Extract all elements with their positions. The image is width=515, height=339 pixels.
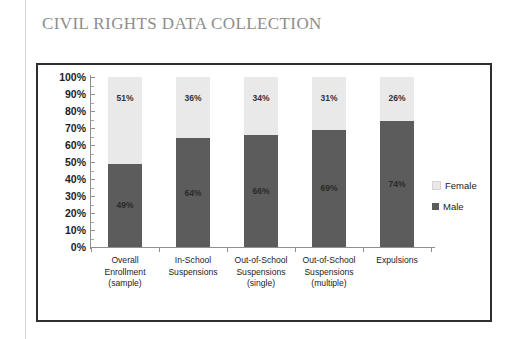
bar-segment-label-male: 66% [244, 186, 278, 196]
plot-area: 51%49%36%64%34%66%31%69%26%74% [91, 77, 431, 247]
bar-segment-label-male: 64% [176, 188, 210, 198]
y-axis-tick [91, 162, 95, 163]
bar-segment-label-male: 69% [312, 183, 346, 193]
bar-segment-label-male: 49% [108, 200, 142, 210]
category-label-line: Overall [87, 255, 163, 267]
x-axis-category-label: OverallEnrollment(sample) [87, 255, 163, 290]
chart-container: 100%90%80%70%60%50%40%30%20%10%0% 51%49%… [36, 63, 492, 322]
y-axis-tick-label: 0% [40, 242, 86, 252]
category-label-line: Enrollment [87, 267, 163, 279]
y-axis-tick-label: 100% [40, 72, 86, 82]
y-axis-tick-label: 40% [40, 174, 86, 184]
bar-column[interactable]: 36%64% [176, 77, 210, 247]
y-axis-tick-label: 10% [40, 225, 86, 235]
y-axis-tick-label: 90% [40, 89, 86, 99]
legend-item-label: Female [445, 180, 477, 191]
legend-item[interactable]: Male [432, 196, 492, 217]
category-label-line: Suspensions [223, 267, 299, 279]
x-axis-tick [159, 248, 160, 252]
bar-column[interactable]: 34%66% [244, 77, 278, 247]
bar-segment-male[interactable]: 69% [312, 130, 346, 247]
chart-legend: FemaleMale [432, 175, 492, 217]
category-label-line: Out-of-School [291, 255, 367, 267]
y-axis-tick-label: 80% [40, 106, 86, 116]
x-axis-category-label: Out-of-SchoolSuspensions(multiple) [291, 255, 367, 290]
bar-segment-male[interactable]: 49% [108, 164, 142, 247]
bar-segment-female[interactable]: 51% [108, 77, 142, 164]
bar-segment-label-female: 51% [108, 93, 142, 103]
y-axis-tick-label: 70% [40, 123, 86, 133]
legend-item-label: Male [443, 201, 464, 212]
bar-column[interactable]: 26%74% [380, 77, 414, 247]
category-label-line: Suspensions [155, 267, 231, 279]
legend-item[interactable]: Female [432, 175, 492, 196]
y-axis-minor-tick [91, 120, 94, 121]
y-axis-minor-tick [91, 154, 94, 155]
bar-segment-label-female: 36% [176, 93, 210, 103]
bar-segment-female[interactable]: 31% [312, 77, 346, 130]
y-axis-tick [91, 111, 95, 112]
bar-segment-female[interactable]: 36% [176, 77, 210, 138]
bar-segment-label-female: 26% [380, 93, 414, 103]
legend-swatch-icon [432, 203, 439, 210]
y-axis-tick [91, 94, 95, 95]
category-label-line: Out-of-School [223, 255, 299, 267]
x-axis-tick [227, 248, 228, 252]
category-label-line: (single) [223, 278, 299, 290]
x-axis-tick [295, 248, 296, 252]
y-axis-tick [91, 145, 95, 146]
y-axis-tick [91, 230, 95, 231]
y-axis-tick [91, 213, 95, 214]
y-axis-tick-label: 60% [40, 140, 86, 150]
x-axis-tick [431, 248, 432, 252]
y-axis-tick [91, 196, 95, 197]
bar-segment-label-male: 74% [380, 179, 414, 189]
y-axis-minor-tick [91, 103, 94, 104]
y-axis-minor-tick [91, 239, 94, 240]
y-axis-tick-label: 20% [40, 208, 86, 218]
y-axis-tick [91, 179, 95, 180]
bar-segment-male[interactable]: 74% [380, 121, 414, 247]
y-axis-minor-tick [91, 205, 94, 206]
x-axis-tick [91, 248, 92, 252]
y-axis-tick [91, 128, 95, 129]
y-axis-minor-tick [91, 171, 94, 172]
bar-segment-female[interactable]: 26% [380, 77, 414, 121]
y-axis-minor-tick [91, 188, 94, 189]
x-axis-category-label: Out-of-SchoolSuspensions(single) [223, 255, 299, 290]
x-axis-category-label: Expulsions [359, 255, 435, 267]
bar-segment-label-female: 34% [244, 93, 278, 103]
bar-column[interactable]: 51%49% [108, 77, 142, 247]
y-axis-tick-labels: 100%90%80%70%60%50%40%30%20%10%0% [38, 77, 86, 247]
bar-column[interactable]: 31%69% [312, 77, 346, 247]
x-axis-tick [363, 248, 364, 252]
category-label-line: Suspensions [291, 267, 367, 279]
category-label-line: In-School [155, 255, 231, 267]
legend-swatch-icon [432, 181, 441, 190]
y-axis-tick-label: 30% [40, 191, 86, 201]
bar-segment-female[interactable]: 34% [244, 77, 278, 135]
bar-segment-label-female: 31% [312, 93, 346, 103]
y-axis-minor-tick [91, 137, 94, 138]
page-title: CIVIL RIGHTS DATA COLLECTION [42, 14, 322, 34]
bar-segment-male[interactable]: 66% [244, 135, 278, 247]
category-label-line: Expulsions [359, 255, 435, 267]
category-label-line: (multiple) [291, 278, 367, 290]
x-axis-line [90, 247, 435, 248]
bar-segment-male[interactable]: 64% [176, 138, 210, 247]
y-axis-tick [91, 77, 95, 78]
y-axis-minor-tick [91, 222, 94, 223]
y-axis-tick-label: 50% [40, 157, 86, 167]
category-label-line: (sample) [87, 278, 163, 290]
page-margin-rule [25, 0, 26, 339]
x-axis-category-label: In-SchoolSuspensions [155, 255, 231, 278]
y-axis-minor-tick [91, 86, 94, 87]
